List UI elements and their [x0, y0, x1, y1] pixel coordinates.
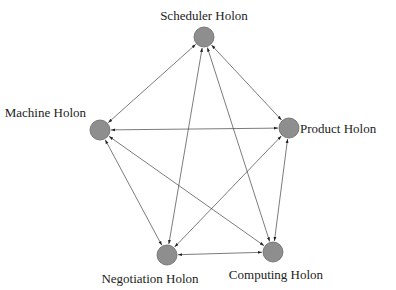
nodes-layer: [90, 27, 299, 265]
node-negotiation: [157, 245, 177, 265]
node-label-machine: Machine Holon: [5, 105, 87, 120]
edge-scheduler-product: [212, 45, 282, 120]
edge-negotiation-computing: [178, 252, 262, 254]
edge-scheduler-negotiation: [169, 48, 202, 244]
edge-machine-negotiation: [105, 140, 162, 246]
node-computing: [263, 242, 283, 262]
node-scheduler: [194, 27, 214, 47]
edges-layer: [105, 44, 287, 254]
node-label-product: Product Holon: [300, 121, 377, 136]
node-label-negotiation: Negotiation Holon: [101, 271, 199, 286]
edge-product-negotiation: [175, 136, 282, 247]
node-machine: [90, 120, 110, 140]
edge-product-computing: [274, 139, 287, 241]
labels-layer: Scheduler HolonMachine HolonProduct Holo…: [5, 8, 377, 286]
holon-network-diagram: Scheduler HolonMachine HolonProduct Holo…: [0, 0, 396, 290]
node-product: [279, 118, 299, 138]
edge-scheduler-machine: [108, 44, 196, 122]
node-label-computing: Computing Holon: [229, 267, 324, 282]
edge-machine-product: [111, 128, 278, 130]
node-label-scheduler: Scheduler Holon: [160, 8, 248, 23]
edge-machine-computing: [109, 136, 264, 245]
